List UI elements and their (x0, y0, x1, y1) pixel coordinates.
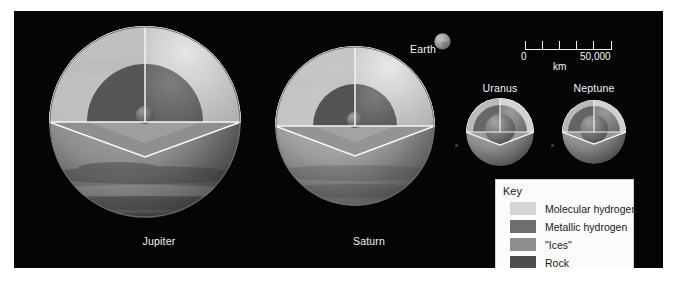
scale-bar-tick (576, 41, 577, 49)
scale-bar-tick (559, 41, 560, 49)
jupiter-cutaway-diagram (48, 25, 242, 219)
scale-bar-tick (542, 41, 543, 49)
key-item-rock: Rock (502, 254, 627, 268)
scale-bar-tick (593, 41, 594, 49)
planet-uranus (465, 97, 535, 167)
key-swatch-ices (510, 238, 536, 251)
earth-globe (434, 33, 451, 50)
neptune-cutaway-diagram (561, 99, 627, 165)
scale-bar: 0 50,000 km (517, 35, 619, 71)
scale-bar-units-label: km (553, 61, 566, 72)
key-label-rock: Rock (545, 257, 569, 269)
label-uranus: Uranus (460, 82, 540, 94)
label-neptune: Neptune (554, 82, 634, 94)
background-speck (551, 144, 554, 147)
key-label-metallic-hydrogen: Metallic hydrogen (545, 221, 627, 233)
key-item-ices: "Ices" (502, 236, 627, 253)
key-swatch-metallic-hydrogen (510, 220, 536, 233)
planet-jupiter (48, 25, 242, 219)
background-speck (455, 144, 458, 147)
scale-bar-max-label: 50,000 (580, 51, 611, 62)
scale-bar-line (525, 41, 612, 50)
key-label-ices: "Ices" (545, 239, 572, 251)
planet-interiors-figure: Jupiter (0, 0, 678, 293)
saturn-cutaway-diagram (274, 45, 436, 207)
key-item-molecular-hydrogen: Molecular hydrogen (502, 200, 627, 217)
image-panel: Jupiter (14, 11, 663, 268)
key-legend: Key Molecular hydrogen Metallic hydrogen… (495, 179, 634, 268)
key-swatch-molecular-hydrogen (510, 202, 536, 215)
key-label-molecular-hydrogen: Molecular hydrogen (545, 203, 637, 215)
key-item-metallic-hydrogen: Metallic hydrogen (502, 218, 627, 235)
key-swatch-rock (510, 256, 536, 268)
label-jupiter: Jupiter (119, 235, 199, 247)
label-saturn: Saturn (329, 235, 409, 247)
scale-bar-min-label: 0 (521, 51, 527, 62)
key-title: Key (503, 185, 627, 197)
uranus-cutaway-diagram (465, 97, 535, 167)
planet-neptune (561, 99, 627, 165)
planet-saturn (274, 45, 436, 207)
